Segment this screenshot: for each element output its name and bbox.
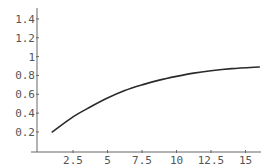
x-tick-label: 5 bbox=[104, 154, 111, 165]
y-ticks: 0.20.40.60.811.21.4 bbox=[15, 13, 39, 139]
y-tick-label: 0.8 bbox=[15, 69, 35, 82]
y-tick-label: 1 bbox=[28, 51, 35, 64]
data-curve bbox=[52, 67, 259, 132]
series bbox=[52, 67, 259, 132]
x-tick-label: 15 bbox=[239, 154, 252, 165]
y-tick-label: 0.6 bbox=[15, 88, 35, 101]
x-tick-label: 7.5 bbox=[132, 154, 152, 165]
y-tick-label: 0.4 bbox=[15, 107, 35, 120]
y-tick-label: 0.2 bbox=[15, 126, 35, 139]
x-tick-label: 10 bbox=[170, 154, 183, 165]
y-tick-label: 1.4 bbox=[15, 13, 35, 26]
x-tick-label: 2.5 bbox=[63, 154, 83, 165]
y-tick-label: 1.2 bbox=[15, 32, 35, 45]
x-tick-label: 12.5 bbox=[198, 154, 225, 165]
axes bbox=[31, 8, 261, 152]
line-chart: 2.557.51012.515 0.20.40.60.811.21.4 bbox=[0, 0, 268, 165]
